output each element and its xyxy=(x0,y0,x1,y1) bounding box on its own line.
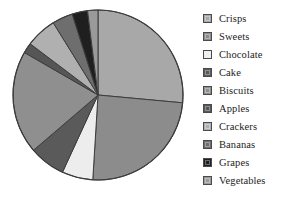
legend-item-label: Chocolate xyxy=(219,49,262,60)
pie-slice[interactable] xyxy=(93,95,183,180)
pie-chart-figure: CrispsSweetsChocolateCakeBiscuitsApplesC… xyxy=(0,0,284,197)
legend-item[interactable]: Crackers xyxy=(203,117,284,135)
legend-item[interactable]: Grapes xyxy=(203,153,284,171)
legend-swatch-icon xyxy=(203,122,212,131)
legend-swatch-icon xyxy=(203,14,212,23)
legend-swatch-icon xyxy=(203,104,212,113)
legend-item-label: Crisps xyxy=(219,13,246,24)
legend-item[interactable]: Bananas xyxy=(203,135,284,153)
pie-slice[interactable] xyxy=(98,10,183,103)
legend-item-label: Vegetables xyxy=(219,175,265,186)
legend-swatch-icon xyxy=(203,68,212,77)
legend-swatch-icon xyxy=(203,176,212,185)
legend-item[interactable]: Sweets xyxy=(203,27,284,45)
legend-item-label: Crackers xyxy=(219,121,257,132)
legend-item[interactable]: Chocolate xyxy=(203,45,284,63)
legend-swatch-icon xyxy=(203,140,212,149)
legend-swatch-icon xyxy=(203,50,212,59)
pie-svg xyxy=(0,0,196,197)
legend-swatch-icon xyxy=(203,158,212,167)
legend-item[interactable]: Crisps xyxy=(203,9,284,27)
legend-swatch-icon xyxy=(203,32,212,41)
legend-item-label: Apples xyxy=(219,103,249,114)
chart-legend: CrispsSweetsChocolateCakeBiscuitsApplesC… xyxy=(203,9,284,189)
legend-item[interactable]: Cake xyxy=(203,63,284,81)
legend-item[interactable]: Vegetables xyxy=(203,171,284,189)
legend-swatch-icon xyxy=(203,86,212,95)
legend-item-label: Cake xyxy=(219,67,241,78)
legend-item-label: Sweets xyxy=(219,31,249,42)
legend-item[interactable]: Biscuits xyxy=(203,81,284,99)
legend-item-label: Bananas xyxy=(219,139,255,150)
legend-item[interactable]: Apples xyxy=(203,99,284,117)
pie-plot-area xyxy=(0,0,196,197)
legend-item-label: Grapes xyxy=(219,157,249,168)
pie-slice-group xyxy=(13,10,183,180)
legend-item-label: Biscuits xyxy=(219,85,254,96)
